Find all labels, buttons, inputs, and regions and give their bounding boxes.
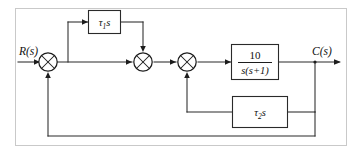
block-diagram-figure: τ1s 10 s(s+1) τ2s R(s) C(s) [0, 0, 362, 154]
arrowhead-sum1-bottom-input [45, 72, 51, 78]
input-signal-label: R(s) [18, 45, 38, 58]
plant-denominator: s(s+1) [241, 65, 269, 77]
summing-junction-1[interactable] [39, 53, 57, 71]
arrowhead-output [334, 59, 341, 65]
arrowhead-plant-input [225, 59, 231, 65]
arrowhead-sum3-left-input [170, 59, 176, 65]
arrowhead-sum2-top-input [140, 46, 146, 52]
arrowhead-sum2-left-input [126, 59, 132, 65]
summing-junction-2[interactable] [134, 53, 152, 71]
block-tau2[interactable]: τ2s [233, 97, 288, 128]
output-signal-label: C(s) [312, 45, 332, 58]
arrowhead-tau1-input [82, 19, 88, 25]
plant-numerator: 10 [250, 49, 262, 61]
arrowhead-sum3-bottom-input [184, 72, 190, 78]
summing-junction-3[interactable] [178, 53, 196, 71]
figure-frame [16, 9, 347, 146]
tau1-label-suffix: s [106, 17, 110, 28]
takeoff-dot-output [313, 60, 316, 63]
tau2-label-suffix: s [262, 107, 266, 118]
block-plant[interactable]: 10 s(s+1) [232, 45, 279, 80]
block-tau1[interactable]: τ1s [89, 11, 121, 34]
